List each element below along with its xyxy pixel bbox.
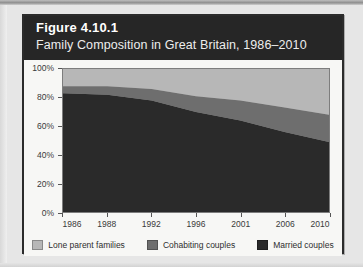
legend-swatch-icon (32, 240, 43, 250)
x-axis-tick-label: 2006 (276, 219, 295, 229)
x-axis-tick-mark (196, 213, 197, 217)
plot-area (62, 68, 330, 213)
y-axis-tick-label: 20% (37, 180, 54, 188)
x-axis-tick-mark (241, 213, 242, 217)
stacked-area-chart (63, 69, 329, 212)
y-axis-tick-label: 60% (37, 122, 54, 130)
chart-area: 0%20%40%60%80%100% 198619881992199620012… (24, 60, 342, 256)
scanned-page: Figure 4.10.1 Family Composition in Grea… (0, 0, 363, 267)
x-axis-tick-label: 2010 (311, 219, 330, 229)
figure-number: Figure 4.10.1 (36, 20, 342, 36)
legend-swatch-icon (147, 240, 158, 250)
x-axis-tick-mark (62, 213, 63, 217)
y-axis-tick-label: 40% (37, 151, 54, 159)
page-top-edge (0, 0, 363, 5)
figure-box: Figure 4.10.1 Family Composition in Grea… (22, 14, 344, 254)
legend-item: Married couples (257, 240, 333, 250)
chart-legend: Lone parent familiesCohabiting couplesMa… (24, 236, 342, 254)
legend-label: Lone parent families (48, 240, 125, 250)
legend-label: Married couples (273, 240, 333, 250)
x-axis-tick-label: 1996 (187, 219, 206, 229)
y-axis-tick-label: 0% (42, 209, 54, 217)
x-axis-tick-label: 2001 (231, 219, 250, 229)
legend-label: Cohabiting couples (163, 240, 235, 250)
x-axis-tick-label: 1986 (63, 219, 82, 229)
x-axis-tick-label: 1992 (142, 219, 161, 229)
page-left-edge (0, 5, 7, 267)
x-axis: 1986198819921996200120062010 (62, 213, 330, 235)
y-axis-tick-label: 80% (37, 93, 54, 101)
y-axis-tick-label: 100% (32, 64, 54, 72)
x-axis-tick-mark (107, 213, 108, 217)
figure-header: Figure 4.10.1 Family Composition in Grea… (24, 16, 342, 60)
y-axis: 0%20%40%60%80%100% (24, 60, 58, 212)
legend-item: Cohabiting couples (147, 240, 235, 250)
legend-swatch-icon (257, 240, 268, 250)
page-bottom-edge (0, 263, 363, 267)
figure-title: Family Composition in Great Britain, 198… (36, 37, 342, 54)
x-axis-tick-label: 1988 (97, 219, 116, 229)
x-axis-tick-mark (330, 213, 331, 217)
x-axis-tick-mark (285, 213, 286, 217)
x-axis-tick-mark (151, 213, 152, 217)
legend-item: Lone parent families (32, 240, 125, 250)
